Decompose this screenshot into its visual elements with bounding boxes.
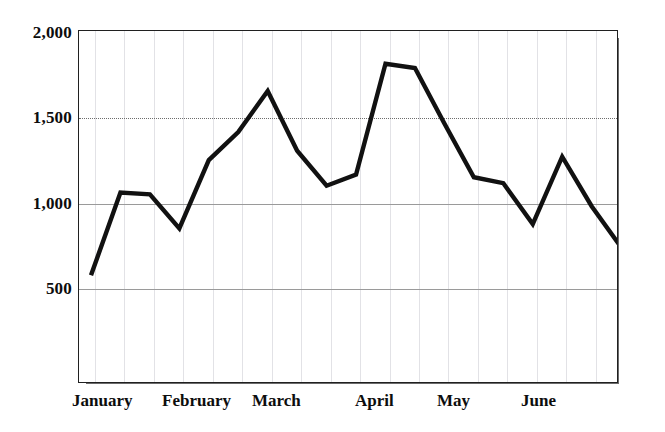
y-axis-tick-label: 1,500 <box>10 109 72 126</box>
x-axis-tick-label: April <box>355 392 394 409</box>
x-axis-tick-label: March <box>252 392 301 409</box>
y-axis-tick-label: 2,000 <box>10 24 72 41</box>
y-axis-tick-label: 1,000 <box>10 195 72 212</box>
series-line <box>79 31 618 383</box>
plot-area <box>78 30 618 383</box>
x-axis-tick-label: June <box>521 392 556 409</box>
line-chart: 2,0001,5001,000500 JanuaryFebruaryMarchA… <box>0 0 665 432</box>
y-axis: 2,0001,5001,000500 <box>8 0 72 432</box>
y-axis-tick-label: 500 <box>10 280 72 297</box>
plot-inner <box>79 31 617 382</box>
x-axis-tick-label: January <box>72 392 132 409</box>
x-axis-tick-label: February <box>162 392 231 409</box>
x-axis: JanuaryFebruaryMarchAprilMayJune <box>0 392 665 422</box>
x-axis-tick-label: May <box>437 392 470 409</box>
